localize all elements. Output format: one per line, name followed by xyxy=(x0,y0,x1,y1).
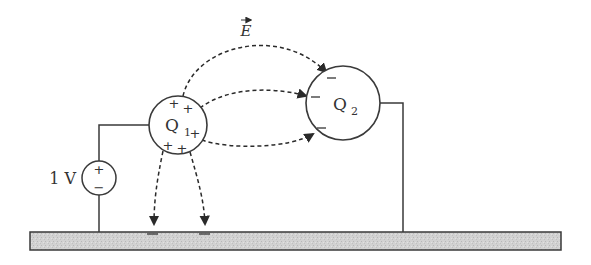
field-line-lower xyxy=(202,134,313,146)
conductor-q2: Q 2 xyxy=(306,66,380,140)
svg-text:+: + xyxy=(163,138,174,153)
svg-text:+: + xyxy=(183,101,194,116)
field-label-text: E xyxy=(240,22,252,40)
wire-right xyxy=(380,103,403,232)
svg-text:+: + xyxy=(190,126,201,141)
field-line-down-2 xyxy=(190,152,205,224)
source-label: 1 V xyxy=(49,169,76,188)
field-label: E xyxy=(240,20,252,40)
svg-text:+: + xyxy=(169,96,180,111)
conductor-q1: Q 1 + + + + + xyxy=(149,96,207,156)
source-plus: + xyxy=(94,162,105,177)
voltage-source: + − 1 V xyxy=(49,161,116,195)
diagram-canvas: + − 1 V E Q 1 + + + + + Q 2 xyxy=(0,0,591,265)
field-line-down-1 xyxy=(154,151,163,224)
field-line-middle xyxy=(200,90,306,108)
wire-left xyxy=(99,125,149,161)
source-minus: − xyxy=(94,180,105,195)
q2-subscript: 2 xyxy=(351,105,358,118)
ground-plane xyxy=(30,232,561,250)
field-line-top xyxy=(183,45,326,96)
q2-label: Q xyxy=(333,94,347,114)
svg-text:+: + xyxy=(177,141,188,156)
q1-label: Q xyxy=(165,115,179,135)
